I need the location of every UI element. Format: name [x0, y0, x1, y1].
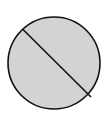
- circle-diagram: [0, 0, 108, 116]
- circle-shape: [8, 17, 100, 109]
